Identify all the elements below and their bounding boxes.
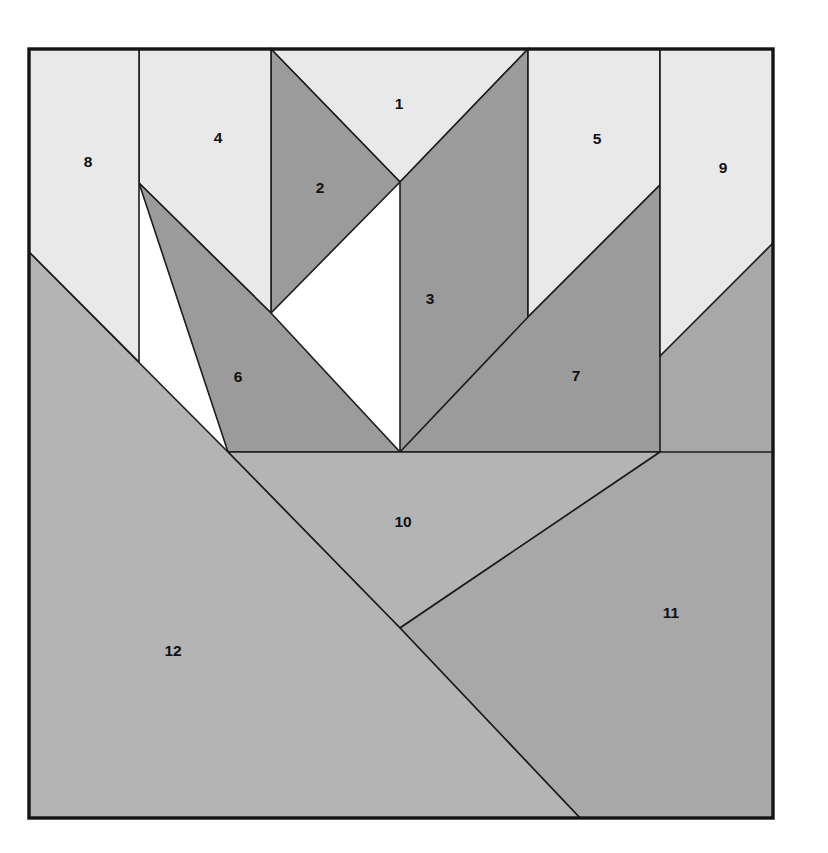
region-label-7: 7: [572, 367, 581, 384]
figure-root: 123456789101112: [0, 0, 828, 853]
region-label-1: 1: [395, 95, 404, 112]
region-label-5: 5: [593, 130, 602, 147]
geometric-pattern-svg: 123456789101112: [0, 0, 828, 853]
region-label-4: 4: [214, 129, 223, 146]
region-label-3: 3: [426, 290, 435, 307]
region-label-8: 8: [84, 153, 93, 170]
region-label-12: 12: [164, 642, 181, 659]
region-label-11: 11: [663, 604, 680, 621]
region-label-2: 2: [316, 179, 325, 196]
region-label-10: 10: [394, 513, 411, 530]
region-label-9: 9: [719, 159, 728, 176]
region-label-6: 6: [234, 368, 243, 385]
